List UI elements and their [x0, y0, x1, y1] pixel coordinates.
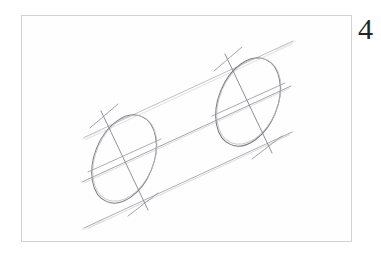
page-canvas: 4: [0, 0, 381, 257]
figure-number-label: 4: [358, 14, 373, 44]
sketch-frame-border: [21, 15, 352, 242]
